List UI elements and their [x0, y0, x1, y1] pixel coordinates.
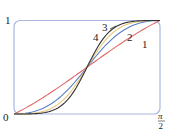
chart: 1 0 π 2 4 3 2 1	[0, 0, 175, 132]
curve-4	[14, 21, 160, 115]
curves	[14, 21, 160, 115]
origin-label: 0	[3, 111, 9, 123]
curve-label-1: 1	[142, 38, 148, 50]
curve-label-2: 2	[127, 31, 133, 43]
curve-label-3: 3	[102, 21, 108, 33]
y-tick-1: 1	[5, 14, 11, 26]
curve-label-4: 4	[93, 31, 99, 43]
x-tick-pi-over-2-num: π	[158, 111, 163, 121]
x-tick-pi-over-2-den: 2	[159, 121, 164, 131]
